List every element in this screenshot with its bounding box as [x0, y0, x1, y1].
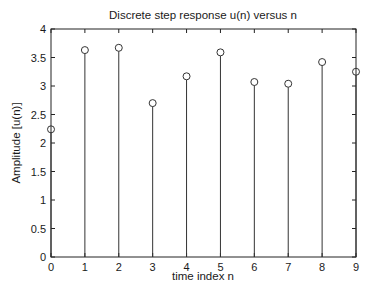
y-tick-label: 1.5: [31, 166, 46, 178]
plot-area: [51, 29, 356, 257]
data-stems: [48, 44, 360, 257]
x-tick-label: 1: [82, 261, 88, 273]
stem-marker-circle: [251, 79, 258, 86]
y-tick-label: 3.5: [31, 52, 46, 64]
stem-chart: Discrete step response u(n) versus n 00.…: [0, 0, 372, 288]
plot-frame: [51, 29, 356, 257]
x-tick-label: 3: [150, 261, 156, 273]
y-tick-label: 4: [40, 23, 46, 35]
y-tick-label: 2: [40, 137, 46, 149]
y-tick-label: 0.5: [31, 223, 46, 235]
x-tick-label: 6: [251, 261, 257, 273]
stem-marker-circle: [183, 73, 190, 80]
x-axis-ticks: 0123456789: [48, 29, 359, 273]
y-tick-label: 2.5: [31, 109, 46, 121]
stem-marker-circle: [115, 44, 122, 51]
x-axis-title: time index n: [172, 270, 234, 282]
chart-title: Discrete step response u(n) versus n: [109, 9, 297, 21]
y-axis-ticks: 00.511.522.533.54: [31, 23, 356, 263]
y-tick-label: 0: [40, 251, 46, 263]
y-tick-label: 3: [40, 80, 46, 92]
y-axis-title: Amplitude [u(n)]: [10, 102, 22, 183]
x-tick-label: 2: [116, 261, 122, 273]
stem-marker-circle: [149, 100, 156, 107]
x-tick-label: 8: [319, 261, 325, 273]
x-tick-label: 0: [48, 261, 54, 273]
stem-marker-circle: [285, 80, 292, 87]
stem-marker-circle: [217, 49, 224, 56]
y-tick-label: 1: [40, 194, 46, 206]
x-tick-label: 7: [285, 261, 291, 273]
x-tick-label: 9: [353, 261, 359, 273]
stem-marker-circle: [81, 47, 88, 54]
stem-marker-circle: [319, 59, 326, 66]
